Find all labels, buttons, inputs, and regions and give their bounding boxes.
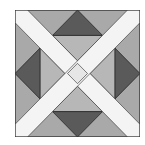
quilt-block: [15, 10, 140, 137]
quilt-block-graphic: [15, 10, 140, 137]
